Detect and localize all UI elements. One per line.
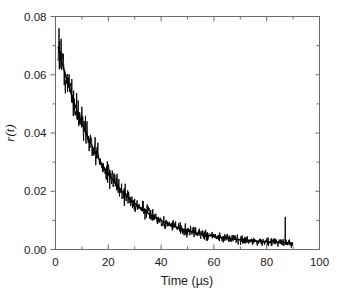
y-tick-label: 0.00	[24, 244, 46, 256]
chart-canvas: 020406080100 0.000.020.040.060.08 Time (…	[0, 0, 339, 296]
x-tick-label: 100	[310, 256, 329, 268]
x-tick-label: 60	[208, 256, 221, 268]
y-tick-label: 0.06	[24, 69, 46, 81]
x-axis-title: Time (µs)	[161, 274, 214, 288]
y-axis-title: r(t)	[2, 124, 17, 141]
x-tick-label: 20	[102, 256, 115, 268]
x-tick-label: 0	[52, 256, 58, 268]
figure-container: 020406080100 0.000.020.040.060.08 Time (…	[0, 0, 339, 296]
y-tick-label: 0.08	[24, 11, 46, 23]
y-tick-label: 0.04	[24, 127, 47, 139]
x-tick-label: 40	[155, 256, 168, 268]
x-tick-label: 80	[260, 256, 273, 268]
y-tick-label: 0.02	[24, 185, 46, 197]
plot-frame	[56, 17, 320, 250]
